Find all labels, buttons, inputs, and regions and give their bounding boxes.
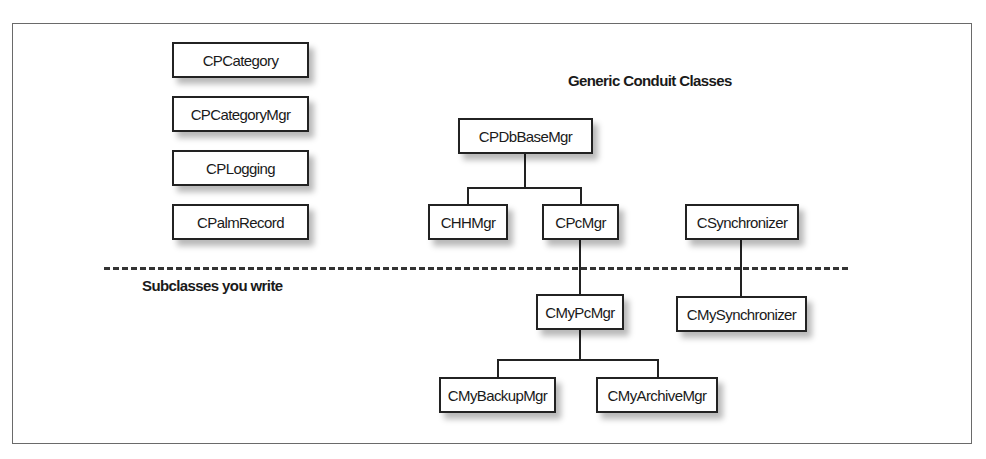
subclass-section-title: Subclasses you write [142, 277, 283, 294]
class-box-cplogging: CPLogging [172, 150, 309, 186]
section-divider [104, 267, 848, 270]
connector [497, 359, 659, 361]
class-box-cpcategorymgr: CPCategoryMgr [172, 96, 309, 132]
class-box-cpcategory: CPCategory [172, 42, 309, 78]
class-box-chhmgr: CHHMgr [428, 204, 508, 240]
connector [657, 359, 659, 377]
class-box-cmypcmgr: CMyPcMgr [536, 294, 624, 330]
class-box-cmyarchivemgr: CMyArchiveMgr [596, 377, 718, 413]
class-box-cpcmgr: CPcMgr [542, 204, 619, 240]
connector [467, 187, 582, 189]
class-box-cmybackupmgr: CMyBackupMgr [439, 377, 556, 413]
connector [467, 187, 469, 204]
connector [524, 154, 526, 188]
class-box-csynchronizer: CSynchronizer [685, 204, 799, 240]
connector [497, 359, 499, 377]
class-box-cpdbbasemgr: CPDbBaseMgr [458, 118, 593, 154]
connector [580, 187, 582, 204]
class-box-cmysynchronizer: CMySynchronizer [676, 296, 807, 332]
connector [579, 330, 581, 360]
generic-section-title: Generic Conduit Classes [568, 72, 732, 89]
class-box-cpalmrecord: CPalmRecord [172, 204, 309, 240]
